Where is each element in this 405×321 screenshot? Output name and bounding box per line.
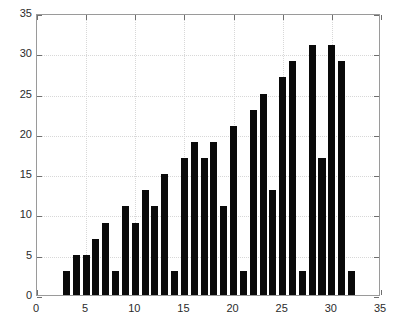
x-tick-label: 35 xyxy=(374,303,386,314)
x-tick-label: 0 xyxy=(33,303,39,314)
x-tick-label: 10 xyxy=(128,303,140,314)
x-tick-label: 15 xyxy=(177,303,189,314)
bar-chart-figure: 05101520253035 05101520253035 xyxy=(0,0,405,321)
x-tick-label: 30 xyxy=(325,303,337,314)
x-tick-label: 5 xyxy=(82,303,88,314)
x-tick-label: 20 xyxy=(226,303,238,314)
x-tick-label: 25 xyxy=(276,303,288,314)
x-axis-tick-labels: 05101520253035 xyxy=(0,0,405,321)
